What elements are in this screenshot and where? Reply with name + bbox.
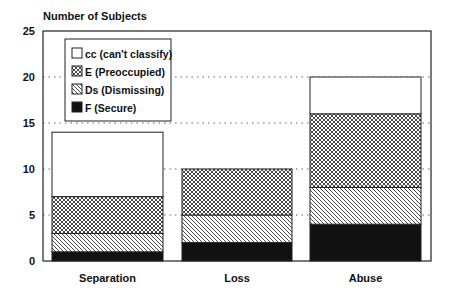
- bar-segment: [310, 77, 421, 114]
- y-tick-label: 10: [23, 163, 35, 175]
- bar-segment: [182, 243, 292, 261]
- bar-segment: [310, 114, 421, 188]
- bar-segment: [52, 252, 163, 261]
- y-tick-labels: 0510152025: [23, 25, 35, 267]
- bar-segment: [182, 169, 292, 215]
- y-tick-label: 15: [23, 117, 35, 129]
- bar-separation: [52, 132, 163, 261]
- legend-swatch: [72, 48, 82, 58]
- bar-segment: [182, 215, 292, 243]
- legend-swatch: [72, 84, 82, 94]
- x-tick-labels: SeparationLossAbuse: [79, 272, 382, 284]
- y-tick-label: 0: [29, 255, 35, 267]
- bar-abuse: [310, 77, 421, 261]
- legend-label: E (Preoccupied): [85, 66, 165, 78]
- x-tick-label: Loss: [224, 272, 250, 284]
- y-tick-label: 5: [29, 209, 35, 221]
- legend-label: F (Secure): [85, 102, 136, 114]
- stacked-bar-chart: Number of Subjects 0510152025 Separation…: [0, 0, 453, 296]
- legend-swatch: [72, 102, 82, 112]
- legend-label: Ds (Dismissing): [85, 84, 164, 96]
- legend: cc (can't classify)E (Preoccupied)Ds (Di…: [65, 39, 172, 121]
- bar-segment: [310, 187, 421, 224]
- legend-swatch: [72, 66, 82, 76]
- legend-label: cc (can't classify): [85, 48, 172, 60]
- bar-segment: [310, 224, 421, 261]
- y-axis-label: Number of Subjects: [43, 10, 147, 22]
- bar-segment: [52, 197, 163, 234]
- x-tick-label: Abuse: [349, 272, 383, 284]
- y-tick-label: 25: [23, 25, 35, 37]
- y-tick-label: 20: [23, 71, 35, 83]
- bar-segment: [52, 132, 163, 196]
- bar-segment: [52, 233, 163, 251]
- bar-loss: [182, 169, 292, 261]
- x-tick-label: Separation: [79, 272, 136, 284]
